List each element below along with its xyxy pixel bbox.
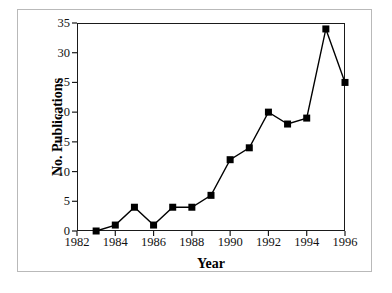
y-axis-title: No. Publications bbox=[50, 37, 66, 217]
data-series-markers bbox=[93, 25, 349, 234]
data-point bbox=[93, 228, 100, 235]
data-point bbox=[169, 204, 176, 211]
data-point bbox=[342, 79, 349, 86]
x-axis-tick-label: 1990 bbox=[218, 236, 243, 249]
plot-canvas bbox=[77, 23, 345, 231]
y-axis-title-wrapper: No. Publications bbox=[30, 23, 31, 231]
data-point bbox=[303, 115, 310, 122]
y-axis-tick-label: 35 bbox=[58, 17, 71, 30]
x-axis-tick-label: 1992 bbox=[256, 236, 281, 249]
data-point bbox=[227, 156, 234, 163]
x-axis-tick-label: 1986 bbox=[141, 236, 166, 249]
x-axis-tick-label: 1982 bbox=[65, 236, 90, 249]
data-series-line bbox=[96, 29, 345, 231]
data-point bbox=[150, 222, 157, 229]
x-axis-tick-label: 1988 bbox=[179, 236, 204, 249]
x-axis-tick-labels: 19821984198619881990199219941996 bbox=[77, 236, 345, 254]
data-point bbox=[246, 144, 253, 151]
x-axis-tick-label: 1984 bbox=[103, 236, 128, 249]
data-point bbox=[284, 121, 291, 128]
x-axis-tick-label: 1994 bbox=[294, 236, 319, 249]
data-point bbox=[188, 204, 195, 211]
data-point bbox=[131, 204, 138, 211]
data-point bbox=[112, 222, 119, 229]
data-point bbox=[322, 25, 329, 32]
figure: 05101520253035 1982198419861988199019921… bbox=[0, 0, 392, 293]
x-axis-title: Year bbox=[77, 256, 345, 272]
data-point bbox=[208, 192, 215, 199]
x-axis-tick-label: 1996 bbox=[333, 236, 358, 249]
data-point bbox=[265, 109, 272, 116]
